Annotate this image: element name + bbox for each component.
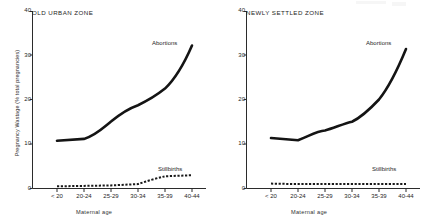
plot-svg-left [0, 0, 219, 223]
axis-lines [33, 11, 207, 189]
figure-pregnancy-wastage: OLD URBAN ZONE Pregnancy Wastage (% tota… [0, 0, 439, 223]
scan-artifact [392, 2, 406, 6]
plot-svg-right [219, 0, 438, 223]
line-abortions [57, 46, 192, 141]
line-stillbirths [57, 175, 192, 186]
x-tick-marks [271, 189, 406, 193]
line-stillbirths [271, 184, 406, 185]
axis-lines [247, 11, 421, 189]
scan-artifact [356, 1, 386, 4]
x-tick-marks [57, 189, 192, 193]
chart-panel-old-urban-zone: OLD URBAN ZONE Pregnancy Wastage (% tota… [0, 0, 219, 223]
chart-panel-newly-settled-zone: NEWLY SETTLED ZONE 0 10 20 30 40 < 20 20… [219, 0, 438, 223]
line-abortions [271, 49, 406, 140]
